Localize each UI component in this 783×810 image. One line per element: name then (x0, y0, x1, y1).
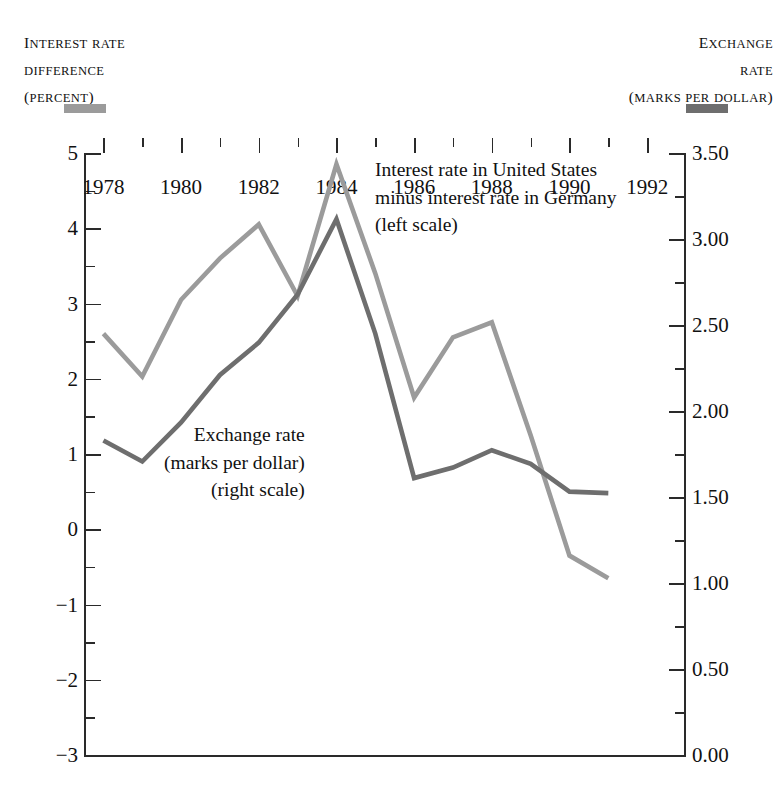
right-axis-tick-label: 0.00 (692, 743, 729, 768)
left-axis-caption: INTEREST RATE DIFFERENCE (PERCENT) (24, 30, 125, 111)
right-axis-tick-label: 3.50 (692, 141, 729, 166)
x-tick-major (414, 138, 416, 153)
x-tick-minor (531, 138, 533, 147)
chart-figure: INTEREST RATE DIFFERENCE (PERCENT) EXCHA… (0, 0, 783, 810)
x-tick-major (647, 138, 649, 153)
x-tick-minor (142, 138, 144, 147)
plot-area: 543210−1−2−3 3.503.002.502.001.501.000.5… (84, 153, 686, 755)
x-tick-minor (220, 138, 222, 147)
right-axis-tick-label: 0.50 (692, 657, 729, 682)
annotation-interest-line1: Interest rate in United States (375, 156, 617, 184)
left-axis-tick-label: −2 (56, 667, 78, 692)
left-tick-major (86, 755, 101, 757)
left-axis-tick-label: 0 (68, 517, 79, 542)
x-tick-major (492, 138, 494, 153)
x-tick-minor (375, 138, 377, 147)
right-tick-major (669, 755, 684, 757)
annotation-exchange-line3: (right scale) (164, 476, 305, 504)
left-series-swatch (64, 104, 106, 113)
x-tick-minor (453, 138, 455, 147)
annotation-interest-rate: Interest rate in United States minus int… (375, 156, 617, 239)
x-tick-major (181, 138, 183, 153)
x-tick-minor (298, 138, 300, 147)
right-axis-caption-line1: EXCHANGE (629, 30, 773, 57)
bottom-axis-line (84, 755, 686, 757)
left-axis-tick-label: 3 (68, 291, 79, 316)
x-tick-major (103, 138, 105, 153)
annotation-exchange-line1: Exchange rate (164, 421, 305, 449)
right-axis-caption-line2: RATE (629, 57, 773, 84)
left-axis-tick-label: 1 (68, 442, 79, 467)
right-axis-tick-label: 3.00 (692, 227, 729, 252)
left-axis-tick-label: 2 (68, 366, 79, 391)
right-axis-caption: EXCHANGE RATE (MARKS PER DOLLAR) (629, 30, 773, 111)
right-axis-tick-label: 2.00 (692, 399, 729, 424)
left-axis-tick-label: −3 (56, 743, 78, 768)
right-axis-tick-label: 1.00 (692, 571, 729, 596)
annotation-interest-line2: minus interest rate in Germany (375, 184, 617, 212)
annotation-interest-line3: (left scale) (375, 211, 617, 239)
right-series-swatch (686, 104, 728, 113)
right-axis-tick-label: 2.50 (692, 313, 729, 338)
x-tick-major (259, 138, 261, 153)
annotation-exchange-rate: Exchange rate (marks per dollar) (right … (164, 421, 305, 504)
annotation-exchange-line2: (marks per dollar) (164, 449, 305, 477)
x-tick-minor (608, 138, 610, 147)
left-axis-tick-label: −1 (56, 592, 78, 617)
left-axis-caption-line2: DIFFERENCE (24, 57, 125, 84)
left-axis-tick-label: 4 (68, 216, 79, 241)
left-axis-tick-label: 5 (68, 141, 79, 166)
x-tick-major (569, 138, 571, 153)
left-axis-caption-line1: INTEREST RATE (24, 30, 125, 57)
right-axis-tick-label: 1.50 (692, 485, 729, 510)
x-tick-major (336, 138, 338, 153)
